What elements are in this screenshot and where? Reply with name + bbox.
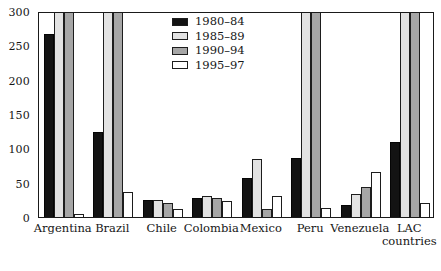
bar bbox=[291, 158, 301, 217]
bar bbox=[242, 178, 252, 217]
x-tick-label: Peru bbox=[297, 222, 324, 235]
legend-label: 1995–97 bbox=[195, 60, 245, 72]
y-axis: 050100150200250300 bbox=[0, 0, 38, 220]
bar bbox=[103, 12, 113, 217]
bar bbox=[252, 159, 262, 217]
bar bbox=[351, 194, 361, 217]
bar-group bbox=[39, 13, 89, 217]
bar bbox=[113, 12, 123, 217]
x-tick-label: LAC countries bbox=[382, 222, 437, 248]
bar bbox=[64, 12, 74, 217]
y-tick-label: 150 bbox=[8, 110, 30, 121]
bar bbox=[192, 198, 202, 217]
x-tick-label: Brazil bbox=[95, 222, 129, 235]
legend-label: 1990–94 bbox=[195, 45, 245, 57]
bar bbox=[272, 196, 282, 217]
bar bbox=[420, 203, 430, 217]
bar bbox=[163, 203, 173, 217]
bar bbox=[222, 201, 232, 217]
chart-legend: 1980–841985–891990–941995–97 bbox=[172, 16, 245, 71]
legend-swatch-icon bbox=[172, 47, 188, 55]
bar bbox=[311, 12, 321, 217]
bar-group bbox=[287, 13, 337, 217]
bar bbox=[400, 12, 410, 217]
x-tick-label: Chile bbox=[147, 222, 177, 235]
legend-entry: 1990–94 bbox=[172, 45, 245, 57]
legend-swatch-icon bbox=[172, 18, 188, 26]
y-tick-label: 300 bbox=[8, 7, 30, 18]
bar-chart: 050100150200250300 1980–841985–891990–94… bbox=[0, 0, 441, 271]
legend-label: 1985–89 bbox=[195, 31, 245, 43]
bar bbox=[74, 214, 84, 217]
y-tick-label: 50 bbox=[16, 178, 30, 189]
legend-swatch-icon bbox=[172, 32, 188, 40]
bar bbox=[410, 12, 420, 217]
bar bbox=[321, 208, 331, 217]
bar bbox=[202, 196, 212, 217]
bar bbox=[262, 209, 272, 217]
legend-entry: 1985–89 bbox=[172, 31, 245, 43]
bar bbox=[301, 12, 311, 217]
legend-label: 1980–84 bbox=[195, 16, 245, 28]
bar bbox=[143, 200, 153, 217]
bar-group bbox=[89, 13, 139, 217]
bar bbox=[173, 209, 183, 217]
bar bbox=[212, 198, 222, 217]
x-tick-label: Colombia bbox=[184, 222, 239, 235]
x-tick-label: Argentina bbox=[34, 222, 92, 235]
bar-group bbox=[336, 13, 386, 217]
y-tick-label: 200 bbox=[8, 75, 30, 86]
bar bbox=[54, 12, 64, 217]
bar bbox=[93, 132, 103, 217]
x-axis: ArgentinaBrazilChileColombiaMexicoPeruVe… bbox=[0, 220, 441, 268]
legend-entry: 1980–84 bbox=[172, 16, 245, 28]
legend-swatch-icon bbox=[172, 61, 188, 69]
y-tick-label: 100 bbox=[8, 144, 30, 155]
bar bbox=[341, 205, 351, 217]
bar bbox=[390, 142, 400, 217]
bar bbox=[123, 192, 133, 217]
bar bbox=[361, 187, 371, 217]
legend-entry: 1995–97 bbox=[172, 60, 245, 72]
bar-group bbox=[386, 13, 435, 217]
bar bbox=[153, 200, 163, 217]
bar bbox=[44, 34, 54, 217]
x-tick-label: Mexico bbox=[240, 222, 282, 235]
y-tick-label: 250 bbox=[8, 41, 30, 52]
x-tick-label: Venezuela bbox=[330, 222, 389, 235]
bar bbox=[371, 172, 381, 217]
